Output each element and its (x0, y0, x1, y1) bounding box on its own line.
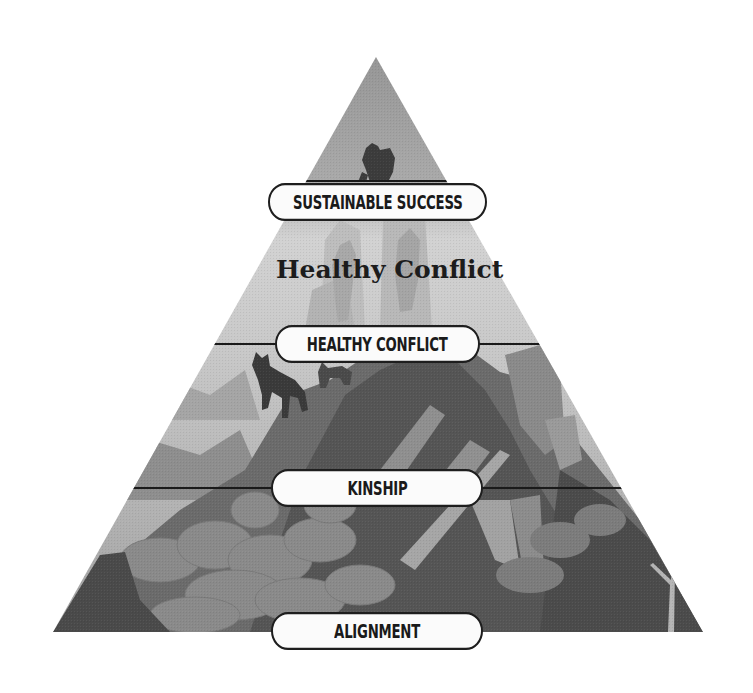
level-label-alignment: ALIGNMENT (271, 612, 483, 650)
level-label-kinship: KINSHIP (271, 469, 483, 507)
level-label-healthy-conflict: HEALTHY CONFLICT (275, 325, 480, 363)
pyramid-diagram: Healthy Conflict SUSTAINABLE SUCCESS HEA… (0, 0, 753, 693)
level-label-text: HEALTHY CONFLICT (307, 333, 448, 355)
section-heading: Healthy Conflict (276, 255, 476, 284)
level-label-text: ALIGNMENT (334, 620, 420, 642)
level-label-text: SUSTAINABLE SUCCESS (293, 191, 463, 213)
level-label-sustainable-success: SUSTAINABLE SUCCESS (268, 183, 487, 221)
level-label-text: KINSHIP (347, 477, 407, 499)
